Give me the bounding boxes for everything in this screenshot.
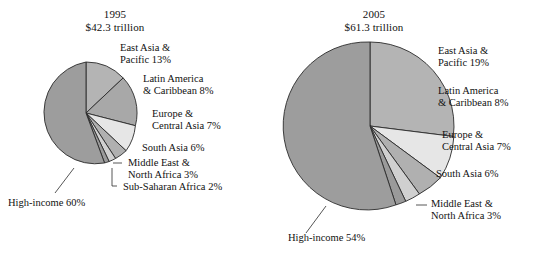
label-east-asia-pacific-2005: East Asia & Pacific 19% [438,45,489,70]
label-line-2: North Africa 3% [128,169,198,181]
pie-chart-1995: 1995 $42.3 trillion [0,0,278,257]
leader-lines-1995 [55,163,122,193]
label-line-2: Central Asia 7% [442,141,511,153]
figure-canvas: 1995 $42.3 trillion [0,0,553,257]
label-middle-east-1995: Middle East & North Africa 3% [128,157,198,182]
label-east-asia-pacific-1995: East Asia & Pacific 13% [120,42,171,67]
label-line-2: Pacific 19% [438,57,489,69]
pie-svg-1995 [0,0,278,257]
leader-line-sub-saharan [112,168,117,186]
label-south-asia-1995: South Asia 6% [142,142,204,154]
pie-slices-2005 [283,42,454,210]
label-line-1: High-income 60% [8,197,85,209]
leader-line-high-income [306,206,326,233]
label-line-1: East Asia & [438,45,489,57]
label-line-1: East Asia & [120,42,171,54]
pie-chart-2005: 2005 $61.3 trillion [278,0,553,257]
label-sub-saharan-africa-1995: Sub-Saharan Africa 2% [123,181,222,193]
label-latin-america-2005: Latin America & Caribbean 8% [438,85,509,110]
pie-svg-2005 [278,0,553,257]
leader-line-high-income [55,168,74,193]
label-line-1: Latin America [143,73,214,85]
label-line-2: Pacific 13% [120,54,171,66]
label-line-1: Europe & [442,129,511,141]
label-line-2: North Africa 3% [431,210,501,222]
label-middle-east-2005: Middle East & North Africa 3% [431,198,501,223]
label-latin-america-1995: Latin America & Caribbean 8% [143,73,214,98]
label-europe-central-asia-2005: Europe & Central Asia 7% [442,129,511,154]
label-line-1: South Asia 6% [142,142,204,154]
label-line-1: Europe & [152,108,221,120]
label-line-1: Latin America [438,85,509,97]
label-south-asia-2005: South Asia 6% [436,168,498,180]
label-line-1: Sub-Saharan Africa 2% [123,181,222,193]
label-line-1: Middle East & [431,198,501,210]
label-line-1: South Asia 6% [436,168,498,180]
label-line-1: High-income 54% [288,232,365,244]
label-high-income-1995: High-income 60% [8,197,85,209]
label-line-2: Central Asia 7% [152,120,221,132]
label-line-2: & Caribbean 8% [143,85,214,97]
label-line-2: & Caribbean 8% [438,97,509,109]
label-high-income-2005: High-income 54% [288,232,365,244]
pie-slices-1995 [44,62,137,164]
label-line-1: Middle East & [128,157,198,169]
label-europe-central-asia-1995: Europe & Central Asia 7% [152,108,221,133]
